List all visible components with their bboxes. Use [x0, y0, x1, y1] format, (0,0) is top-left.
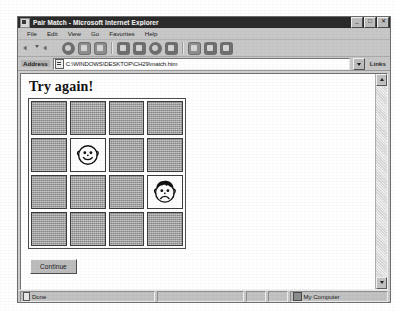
page-document-icon: [55, 59, 64, 69]
links-button[interactable]: Links: [368, 60, 388, 67]
maximize-button[interactable]: □: [364, 17, 376, 28]
browser-client-area: Try again!: [18, 71, 390, 290]
close-icon: ✕: [378, 18, 388, 25]
page-title: Try again!: [29, 80, 375, 94]
continue-button-wrap: Continue: [30, 259, 375, 274]
tile-r1c2[interactable]: [70, 101, 106, 135]
window-title: Pair Match - Microsoft Internet Explorer: [33, 19, 351, 26]
tile-r4c3[interactable]: [109, 212, 145, 246]
smiling-face-icon: [71, 139, 105, 171]
search-button[interactable]: [116, 41, 131, 55]
home-button[interactable]: [93, 41, 108, 55]
close-button[interactable]: ✕: [377, 17, 389, 28]
menu-item-edit[interactable]: Edit: [42, 30, 63, 37]
scroll-down-button[interactable]: [376, 277, 387, 289]
ie-document-icon: [20, 18, 30, 28]
window-titlebar[interactable]: Pair Match - Microsoft Internet Explorer…: [18, 17, 390, 28]
computer-icon: [293, 292, 302, 301]
pair-match-grid: [28, 98, 186, 249]
address-value: C:\WINDOWS\DESKTOP\CH29\match.htm: [66, 61, 178, 67]
tile-r3c1[interactable]: [31, 175, 67, 209]
print-icon: [221, 43, 232, 54]
status-slot-1: [246, 291, 266, 302]
frowning-face-with-hair-icon: [148, 176, 182, 208]
tile-r3c4[interactable]: [147, 175, 183, 209]
mail-icon: [205, 43, 216, 54]
tile-r3c3[interactable]: [109, 175, 145, 209]
stop-icon: [63, 43, 74, 54]
internet-explorer-window: Pair Match - Microsoft Internet Explorer…: [17, 16, 391, 303]
status-message: Done: [32, 294, 46, 300]
home-icon: [95, 43, 106, 54]
tile-r1c1[interactable]: [31, 101, 67, 135]
menu-item-help[interactable]: Help: [140, 30, 163, 37]
channels-button[interactable]: [164, 41, 179, 55]
fullscreen-icon: [189, 43, 200, 54]
toolbar-separator: [111, 42, 113, 54]
favorites-button[interactable]: [132, 41, 147, 55]
minimize-icon: _: [352, 18, 362, 25]
print-button[interactable]: [219, 41, 234, 55]
tile-r2c1[interactable]: [31, 138, 67, 172]
address-dropdown-button[interactable]: [353, 58, 365, 70]
continue-button[interactable]: Continue: [30, 259, 77, 274]
page-vertical-scrollbar[interactable]: [375, 74, 387, 289]
back-dropdown-icon: [35, 45, 39, 48]
security-zone-cell[interactable]: My Computer: [290, 291, 388, 302]
maximize-icon: □: [365, 18, 375, 25]
refresh-icon: [79, 43, 90, 54]
toolbar-separator-2: [182, 42, 184, 54]
tile-r4c4[interactable]: [147, 212, 183, 246]
status-message-cell: Done: [20, 291, 155, 302]
web-page-content: Try again!: [21, 74, 375, 289]
forward-arrow-icon: [43, 43, 58, 54]
history-button[interactable]: [148, 41, 163, 55]
refresh-button[interactable]: [77, 41, 92, 55]
history-icon: [150, 43, 161, 54]
channels-icon: [166, 43, 177, 54]
window-controls: _ □ ✕: [351, 17, 389, 28]
mail-button[interactable]: [203, 41, 218, 55]
fullscreen-button[interactable]: [187, 41, 202, 55]
scroll-up-button[interactable]: [376, 74, 387, 86]
tile-r1c4[interactable]: [147, 101, 183, 135]
forward-button[interactable]: [41, 41, 60, 55]
address-input[interactable]: C:\WINDOWS\DESKTOP\CH29\match.htm: [53, 58, 350, 70]
tile-r3c2[interactable]: [70, 175, 106, 209]
status-document-icon: [23, 292, 30, 301]
favorites-folder-icon: [134, 43, 145, 54]
menu-item-go[interactable]: Go: [86, 30, 104, 37]
status-slot-2: [268, 291, 288, 302]
browser-toolbar: [18, 40, 390, 57]
address-bar: Address C:\WINDOWS\DESKTOP\CH29\match.ht…: [18, 57, 390, 71]
tile-r1c3[interactable]: [109, 101, 145, 135]
stop-button[interactable]: [61, 41, 76, 55]
page-frame: Try again!: [20, 73, 388, 290]
status-bar: Done My Computer: [18, 290, 390, 302]
search-icon: [118, 43, 129, 54]
links-label: Links: [370, 60, 386, 67]
menu-item-favorites[interactable]: Favorites: [104, 30, 139, 37]
minimize-button[interactable]: _: [351, 17, 363, 28]
menu-bar: File Edit View Go Favorites Help: [18, 28, 390, 40]
tile-r2c4[interactable]: [147, 138, 183, 172]
scroll-track[interactable]: [376, 86, 387, 277]
address-label: Address: [21, 60, 50, 67]
tile-r2c2[interactable]: [70, 138, 106, 172]
tile-r4c1[interactable]: [31, 212, 67, 246]
menu-item-file[interactable]: File: [22, 30, 42, 37]
back-button[interactable]: [21, 41, 40, 55]
tile-r4c2[interactable]: [70, 212, 106, 246]
security-zone-label: My Computer: [304, 294, 340, 300]
menu-item-view[interactable]: View: [63, 30, 86, 37]
status-progress-cell: [157, 291, 243, 302]
tile-r2c3[interactable]: [109, 138, 145, 172]
